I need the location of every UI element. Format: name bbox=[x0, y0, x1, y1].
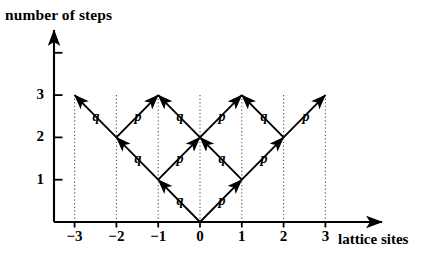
step-label-q-8: q bbox=[173, 109, 187, 125]
axis-ticks bbox=[54, 53, 325, 228]
step-label-q-10: q bbox=[257, 109, 271, 125]
step-label-q-4: q bbox=[215, 151, 229, 167]
x-tick-label-0: 0 bbox=[187, 228, 213, 245]
step-label-q-6: q bbox=[89, 109, 103, 125]
x-tick-label-2: 2 bbox=[271, 228, 297, 245]
y-tick-label-1: 1 bbox=[28, 171, 44, 188]
step-label-p-9: p bbox=[215, 109, 229, 125]
x-axis-title: lattice sites bbox=[338, 231, 408, 248]
y-axis-title: number of steps bbox=[5, 6, 112, 24]
step-label-p-5: p bbox=[257, 151, 271, 167]
step-label-p-11: p bbox=[299, 109, 313, 125]
step-label-p-3: p bbox=[173, 151, 187, 167]
y-tick-label-3: 3 bbox=[28, 86, 44, 103]
step-label-q-2: q bbox=[131, 151, 145, 167]
x-tick-label-1: 1 bbox=[229, 228, 255, 245]
x-tick-label-3: 3 bbox=[312, 228, 338, 245]
step-label-q-0: q bbox=[173, 193, 187, 209]
x-tick-label--2: −2 bbox=[103, 228, 129, 245]
plot-canvas bbox=[0, 0, 442, 262]
y-tick-label-2: 2 bbox=[28, 128, 44, 145]
grid-lines bbox=[75, 95, 326, 222]
x-tick-label--1: −1 bbox=[145, 228, 171, 245]
x-tick-label--3: −3 bbox=[62, 228, 88, 245]
step-label-p-7: p bbox=[131, 109, 145, 125]
step-label-p-1: p bbox=[215, 193, 229, 209]
random-walk-diagram: number of steps lattice sites −3−2−10123… bbox=[0, 0, 442, 262]
